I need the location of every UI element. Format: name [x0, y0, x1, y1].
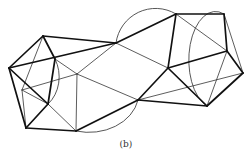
polyhedron-diagram: [0, 0, 252, 157]
figure-caption: (b): [0, 139, 252, 149]
edge-A-H: [43, 36, 116, 43]
edge-C-F: [26, 128, 76, 131]
edge-I-K: [176, 14, 227, 51]
edge-N-F: [76, 100, 138, 131]
edge-G-N: [77, 74, 138, 100]
edge-M-K: [168, 51, 227, 68]
arc-3: [189, 11, 224, 106]
edge-E-C: [26, 104, 48, 128]
thin-edges: [22, 14, 243, 131]
edge-G-F: [76, 74, 77, 131]
heavy-edges: [9, 14, 243, 131]
circle-arcs: [48, 8, 224, 132]
edge-M-N: [138, 68, 168, 100]
edge-A-D: [43, 36, 55, 59]
edge-M-I: [168, 14, 176, 68]
edge-E-F: [48, 104, 76, 131]
edge-H-M: [116, 43, 168, 68]
edge-O-N: [138, 100, 207, 106]
edge-M-O: [168, 68, 207, 106]
edge-K-L: [227, 51, 243, 73]
edge-H-I: [116, 14, 176, 43]
